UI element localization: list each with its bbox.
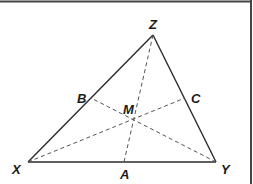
side-zx	[28, 35, 153, 162]
label-x: X	[11, 162, 22, 177]
median-yb	[91, 98, 216, 162]
triangle-medians-diagram: Z X Y A B C M	[0, 0, 253, 184]
label-z: Z	[148, 17, 158, 32]
label-b: B	[77, 91, 86, 106]
median-xc	[28, 98, 185, 162]
label-a: A	[119, 167, 129, 182]
label-c: C	[191, 91, 201, 106]
median-za	[124, 35, 153, 162]
label-m: M	[123, 102, 135, 117]
label-y: Y	[221, 162, 231, 177]
